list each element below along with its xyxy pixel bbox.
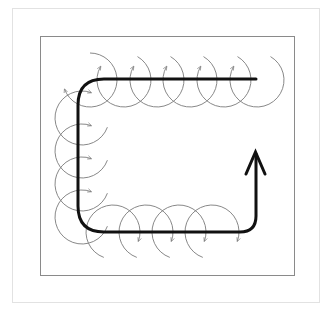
left-arc	[55, 190, 107, 244]
top-arc	[97, 57, 151, 107]
top-arc	[163, 57, 217, 107]
main-path	[78, 79, 256, 232]
left-arc	[55, 91, 107, 145]
top-arc	[230, 57, 284, 107]
top-arc	[130, 57, 184, 107]
top-arc	[197, 57, 251, 107]
left-arc	[55, 157, 107, 211]
left-arc	[55, 124, 107, 178]
path-diagram	[0, 0, 336, 317]
